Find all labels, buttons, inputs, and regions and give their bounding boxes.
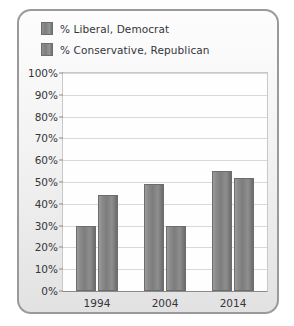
y-axis-label: 20% [35, 241, 58, 253]
x-axis-label: 1994 [84, 297, 111, 309]
chart-card: % Liberal, Democrat % Conservative, Repu… [17, 9, 279, 314]
legend-swatch-icon [41, 22, 53, 35]
bar [212, 171, 232, 291]
bar [98, 195, 118, 291]
y-axis-label: 50% [35, 176, 58, 188]
legend-swatch-icon [41, 43, 53, 56]
bar [234, 178, 254, 291]
bar-series [63, 73, 267, 291]
legend-item-liberal-democrat: % Liberal, Democrat [41, 18, 266, 39]
legend-label: % Conservative, Republican [60, 44, 210, 56]
y-axis-label: 60% [35, 154, 58, 166]
plot-wrap: 100%90%80%70%60%50%40%30%20%10%0% 199420… [62, 72, 268, 292]
y-axis-label: 40% [35, 198, 58, 210]
x-axis-label: 2004 [152, 297, 179, 309]
bar-group [63, 73, 131, 291]
y-axis-label: 70% [35, 132, 58, 144]
y-axis-label: 10% [35, 263, 58, 275]
y-axis-label: 30% [35, 220, 58, 232]
bar-group [199, 73, 267, 291]
y-axis-label: 90% [35, 89, 58, 101]
legend-label: % Liberal, Democrat [60, 23, 169, 35]
plot-area: 100%90%80%70%60%50%40%30%20%10%0% 199420… [62, 72, 268, 292]
bar [76, 226, 96, 291]
y-axis-label: 0% [41, 285, 58, 297]
bar [166, 226, 186, 291]
legend-item-conservative-republican: % Conservative, Republican [41, 39, 266, 60]
y-axis-label: 100% [28, 67, 58, 79]
y-axis-label: 80% [35, 111, 58, 123]
bar [144, 184, 164, 291]
bar-group [131, 73, 199, 291]
chart-legend: % Liberal, Democrat % Conservative, Repu… [41, 18, 266, 60]
x-axis-label: 2014 [220, 297, 247, 309]
